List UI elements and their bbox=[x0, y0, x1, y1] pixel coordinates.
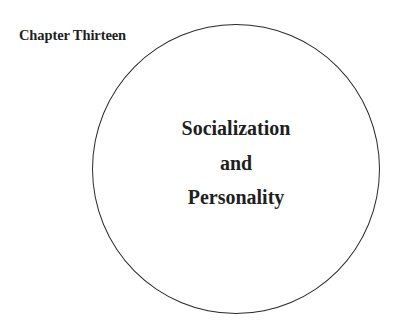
chapter-label: Chapter Thirteen bbox=[19, 27, 126, 44]
chapter-title-line-3: Personality bbox=[136, 187, 336, 207]
chapter-title-line-2: and bbox=[136, 153, 336, 173]
chapter-title-line-1: Socialization bbox=[136, 118, 336, 138]
